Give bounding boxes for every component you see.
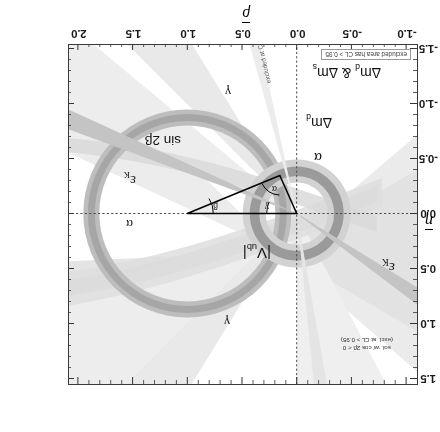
x-tick-label: 2.0	[71, 28, 86, 40]
cos2beta-note-line2: (excl. at CL > 0.95)	[341, 336, 393, 344]
y-axis-title: η	[425, 212, 433, 230]
x-tick-label: -0.5	[343, 28, 362, 40]
x-tick-label: 1.0	[181, 28, 196, 40]
plot-canvas: α α γ γ εK εK |Vub| sin 2β Δmd	[69, 45, 417, 384]
y-tick-label: -1.5	[419, 44, 438, 56]
cos2beta-solution-note: sol. w/ cos 2β < 0 (excl. at CL > 0.95)	[341, 336, 393, 352]
y-axis-title-symbol: η	[425, 213, 433, 230]
x-tick-label: 0.0	[290, 28, 305, 40]
y-tick-label: 0.5	[421, 264, 436, 276]
ckm-unitarity-triangle-figure: α α γ γ εK εK |Vub| sin 2β Δmd	[0, 0, 440, 432]
cos2beta-note-line1: sol. w/ cos 2β < 0	[341, 344, 393, 352]
y-tick-label: 1.5	[421, 374, 436, 386]
y-tick-label: 1.0	[421, 319, 436, 331]
y-tick-label: -0.5	[419, 154, 438, 166]
x-tick-label: 1.5	[126, 28, 141, 40]
excluded-area-legend-box: excluded area has CL > 0.95	[321, 49, 411, 60]
x-tick-label: 0.5	[235, 28, 250, 40]
band-vub	[69, 45, 417, 384]
figure-rotation-wrapper: α α γ γ εK εK |Vub| sin 2β Δmd	[0, 0, 440, 432]
y-tick-label: -1.0	[419, 99, 438, 111]
x-axis-title-symbol: ρ	[242, 6, 250, 23]
plot-frame: α α γ γ εK εK |Vub| sin 2β Δmd	[68, 44, 418, 385]
constraint-bands-svg	[69, 45, 417, 384]
x-tick-label: -1.0	[398, 28, 417, 40]
x-axis-title: ρ	[242, 5, 250, 23]
